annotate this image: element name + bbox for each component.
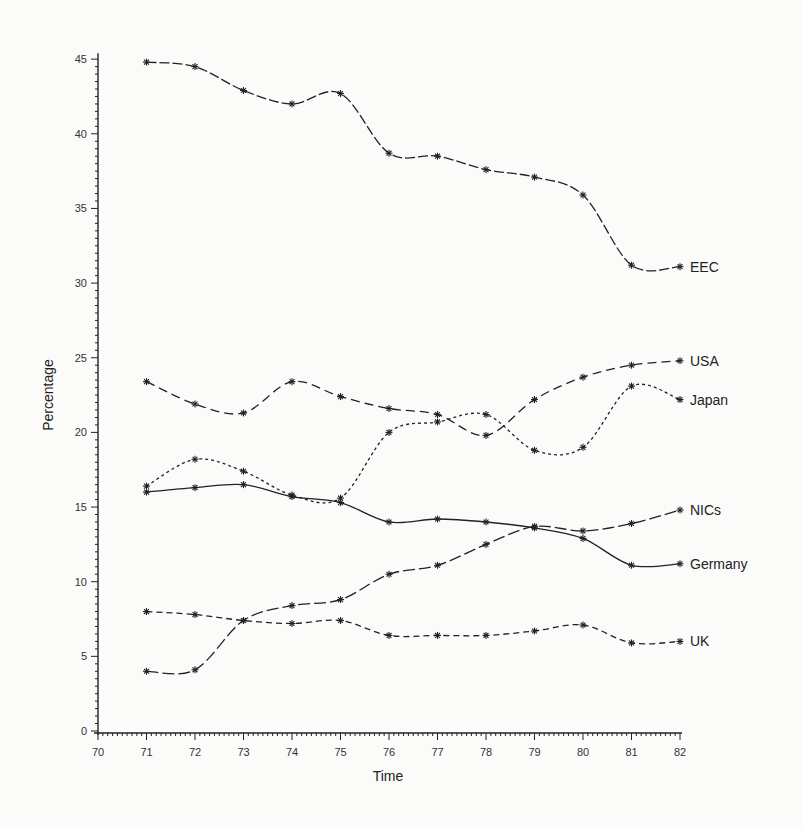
x-tick-label: 73 [237,746,249,758]
asterisk-marker-icon [434,632,441,639]
asterisk-marker-icon [531,447,538,454]
asterisk-marker-icon [143,378,150,385]
asterisk-marker-icon [240,87,247,94]
asterisk-marker-icon [434,418,441,425]
series-line-uk [147,612,681,644]
series-label-nics: NICs [690,502,721,518]
y-tick-label: 15 [75,501,87,513]
asterisk-marker-icon [289,378,296,385]
asterisk-marker-icon [386,632,393,639]
asterisk-marker-icon [337,499,344,506]
series-label-germany: Germany [690,556,748,572]
asterisk-marker-icon [143,483,150,490]
x-tick-label: 76 [383,746,395,758]
x-axis: 70717273747576777879808182 [92,733,686,758]
asterisk-marker-icon [677,638,684,645]
asterisk-marker-icon [483,541,490,548]
asterisk-marker-icon [386,571,393,578]
asterisk-marker-icon [580,527,587,534]
asterisk-marker-icon [434,562,441,569]
series-uk: UK [143,608,710,649]
asterisk-marker-icon [531,524,538,531]
asterisk-marker-icon [192,484,199,491]
asterisk-marker-icon [580,192,587,199]
asterisk-marker-icon [289,602,296,609]
asterisk-marker-icon [289,100,296,107]
asterisk-marker-icon [483,166,490,173]
series-label-uk: UK [690,633,710,649]
asterisk-marker-icon [192,456,199,463]
asterisk-marker-icon [677,507,684,514]
asterisk-marker-icon [240,481,247,488]
line-chart: 051015202530354045 707172737475767778798… [0,0,802,828]
asterisk-marker-icon [337,90,344,97]
asterisk-marker-icon [580,535,587,542]
asterisk-marker-icon [483,518,490,525]
asterisk-marker-icon [386,518,393,525]
y-tick-label: 0 [81,725,87,737]
asterisk-marker-icon [240,468,247,475]
series-line-nics [147,510,681,674]
asterisk-marker-icon [483,411,490,418]
asterisk-marker-icon [143,608,150,615]
asterisk-marker-icon [143,489,150,496]
asterisk-marker-icon [434,411,441,418]
asterisk-marker-icon [240,409,247,416]
x-tick-label: 71 [140,746,152,758]
asterisk-marker-icon [337,393,344,400]
series-nics: NICs [143,502,721,675]
x-tick-label: 78 [480,746,492,758]
asterisk-marker-icon [192,666,199,673]
series-usa: USA [143,353,719,439]
asterisk-marker-icon [289,620,296,627]
series-label-usa: USA [690,353,719,369]
x-tick-label: 70 [92,746,104,758]
asterisk-marker-icon [434,153,441,160]
x-tick-label: 79 [528,746,540,758]
series-line-eec [147,62,681,271]
asterisk-marker-icon [192,401,199,408]
x-axis-title: Time [373,768,404,784]
asterisk-marker-icon [192,611,199,618]
x-tick-label: 75 [334,746,346,758]
series-label-eec: EEC [690,259,719,275]
asterisk-marker-icon [580,621,587,628]
series-line-usa [147,361,681,436]
asterisk-marker-icon [531,174,538,181]
series-label-japan: Japan [690,392,728,408]
asterisk-marker-icon [337,617,344,624]
asterisk-marker-icon [386,405,393,412]
asterisk-marker-icon [628,383,635,390]
y-tick-label: 10 [75,576,87,588]
asterisk-marker-icon [337,596,344,603]
series-eec: EEC [143,59,719,275]
x-tick-label: 72 [189,746,201,758]
asterisk-marker-icon [628,520,635,527]
asterisk-marker-icon [434,515,441,522]
x-tick-label: 74 [286,746,298,758]
y-tick-label: 45 [75,53,87,65]
series-line-germany [147,484,681,567]
x-tick-label: 77 [431,746,443,758]
asterisk-marker-icon [483,432,490,439]
asterisk-marker-icon [628,362,635,369]
asterisk-marker-icon [240,617,247,624]
y-tick-label: 5 [81,650,87,662]
x-tick-label: 82 [674,746,686,758]
y-tick-label: 40 [75,128,87,140]
asterisk-marker-icon [677,396,684,403]
asterisk-marker-icon [677,357,684,364]
asterisk-marker-icon [192,63,199,70]
asterisk-marker-icon [531,627,538,634]
asterisk-marker-icon [289,493,296,500]
y-axis: 051015202530354045 [75,53,98,737]
asterisk-marker-icon [531,396,538,403]
y-axis-title: Percentage [40,359,56,431]
y-tick-label: 35 [75,202,87,214]
asterisk-marker-icon [677,263,684,270]
y-tick-label: 30 [75,277,87,289]
y-tick-label: 25 [75,352,87,364]
series-group: EECUSAJapanNICsGermanyUK [143,59,748,675]
asterisk-marker-icon [143,668,150,675]
asterisk-marker-icon [483,632,490,639]
